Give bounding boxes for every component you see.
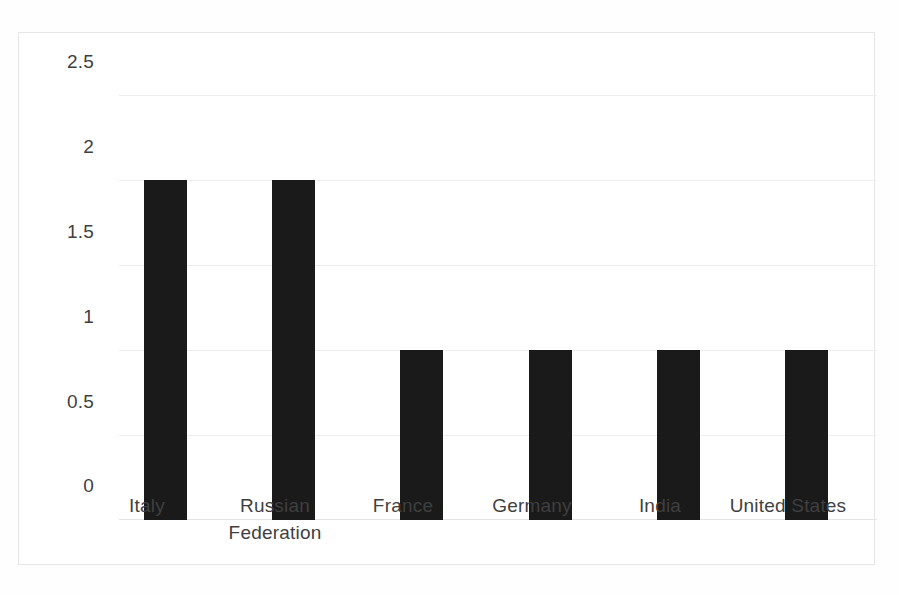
gridline-0.5 [119, 435, 877, 436]
y-tick-label-2.5: 2.5 [24, 51, 94, 73]
x-tick-label-italy: Italy [77, 492, 217, 519]
x-tick-label-germany: Germany [462, 492, 602, 519]
y-tick-label-1.5: 1.5 [24, 221, 94, 243]
y-tick-label-0.5: 0.5 [24, 391, 94, 413]
gridline-2 [119, 180, 877, 181]
y-tick-label-2: 2 [24, 136, 94, 158]
gridline-1.5 [119, 265, 877, 266]
bar-italy[interactable] [144, 180, 187, 520]
x-tick-label-france: France [333, 492, 473, 519]
bar-chart-figure: 2.5 2 1.5 1 0.5 0 Italy Russian Federati… [0, 0, 899, 595]
x-tick-label-russian-federation: Russian Federation [205, 492, 345, 546]
plot-area [119, 95, 877, 520]
plot-frame [18, 32, 875, 565]
x-axis: Italy Russian Federation France Germany … [100, 492, 858, 562]
y-tick-label-1: 1 [24, 306, 94, 328]
y-axis: 2.5 2 1.5 1 0.5 0 [20, 62, 94, 487]
gridline-1 [119, 350, 877, 351]
x-tick-label-india: India [590, 492, 730, 519]
x-tick-label-united-states: United States [718, 492, 858, 519]
gridline-2.5 [119, 95, 877, 96]
bar-russian-federation[interactable] [272, 180, 315, 520]
